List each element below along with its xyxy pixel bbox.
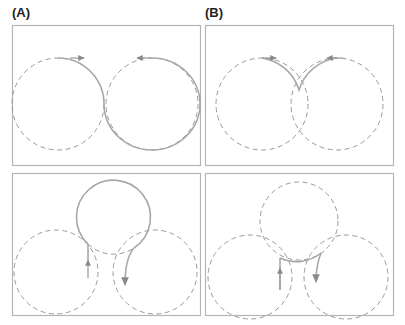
panel-a-bottom-frame — [13, 174, 201, 316]
panel-b-top-diagram — [216, 58, 383, 150]
panel-a-top-diagram — [12, 58, 200, 150]
panel-a-top-frame — [13, 26, 201, 166]
arrow-icon — [316, 253, 321, 282]
panel-b-top-frame — [206, 26, 394, 166]
panel-a-bottom-diagram — [14, 180, 197, 314]
arrow-icon — [125, 248, 134, 285]
panel-b-bottom-diagram — [208, 182, 388, 319]
panel-b-bottom-frame — [206, 174, 394, 316]
diagram-canvas — [0, 0, 405, 325]
